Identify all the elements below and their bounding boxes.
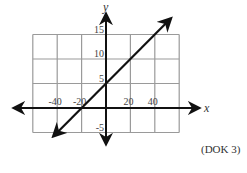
dok-annotation: (DOK 3) (201, 143, 240, 155)
svg-text:-5: -5 (96, 122, 104, 133)
tick-labels: -40-20204015105-5 (49, 24, 158, 133)
svg-text:40: 40 (148, 96, 158, 107)
data-line (54, 19, 171, 137)
svg-text:15: 15 (94, 24, 104, 35)
y-axis-label: y (102, 0, 109, 14)
svg-text:10: 10 (94, 48, 104, 59)
axes (14, 14, 199, 144)
svg-text:-40: -40 (49, 96, 62, 107)
svg-text:20: 20 (123, 96, 133, 107)
svg-text:5: 5 (99, 73, 104, 84)
x-axis-label: x (203, 101, 210, 115)
